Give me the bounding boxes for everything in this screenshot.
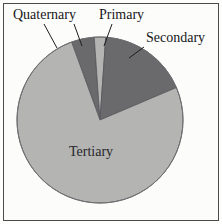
pie-label-quaternary: Quaternary [13, 8, 76, 22]
pie-label-secondary: Secondary [146, 31, 205, 45]
pie-label-tertiary: Tertiary [69, 145, 113, 159]
pie-chart-figure: Quaternary Primary Secondary Tertiary [0, 0, 222, 224]
pie-slices [17, 37, 183, 203]
leader-line-quaternary [44, 24, 57, 48]
pie-label-primary: Primary [99, 8, 144, 22]
